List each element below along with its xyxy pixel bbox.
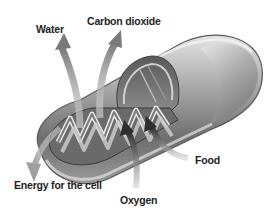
- water-label: Water: [36, 23, 64, 35]
- carbon-dioxide-label: Carbon dioxide: [87, 15, 161, 27]
- cutaway-opening: [117, 56, 179, 112]
- energy-label: Energy for the cell: [14, 179, 102, 191]
- mitochondrion-diagram: Water Carbon dioxide Energy for the cell…: [0, 0, 272, 224]
- oxygen-label: Oxygen: [120, 194, 157, 206]
- food-label: Food: [195, 154, 220, 166]
